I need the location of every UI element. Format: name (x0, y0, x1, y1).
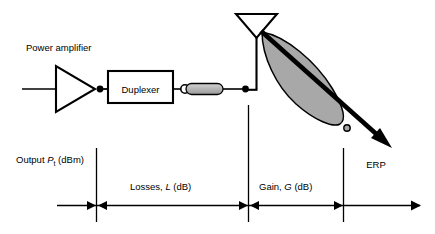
lobe-tip-node (344, 125, 350, 131)
power-amplifier-label: Power amplifier (26, 42, 91, 53)
rf-chain-diagram: Power amplifier Duplexer Output Pt (dBm)… (0, 0, 435, 234)
arrowhead-gain-left (250, 201, 259, 210)
diagram-canvas: Power amplifier Duplexer Output Pt (dBm)… (0, 0, 435, 234)
arrowhead-baseline-end (411, 201, 421, 211)
gain-unit: (dB) (292, 181, 313, 192)
erp-label: ERP (366, 159, 386, 170)
gain-symbol: G (284, 181, 291, 192)
amplifier-output-node (97, 86, 104, 93)
losses-prefix: Losses, (130, 181, 165, 192)
output-power-prefix: Output (16, 154, 47, 165)
gain-label: Gain, G (dB) (259, 181, 312, 192)
arrowhead-losses-left (98, 201, 107, 210)
arrowhead-losses-right (239, 201, 248, 210)
duplexer-label: Duplexer (121, 84, 159, 95)
gain-prefix: Gain, (259, 181, 284, 192)
output-power-unit: (dBm) (55, 154, 84, 165)
losses-label: Losses, L (dB) (130, 181, 191, 192)
feeder-cable (186, 84, 223, 95)
arrowhead-output-right (87, 201, 96, 210)
radiation-lobe (262, 32, 343, 125)
losses-unit: (dB) (171, 181, 192, 192)
power-amplifier-symbol (56, 66, 95, 112)
arrowhead-gain-right (334, 201, 343, 210)
output-power-label: Output Pt (dBm) (16, 154, 84, 167)
